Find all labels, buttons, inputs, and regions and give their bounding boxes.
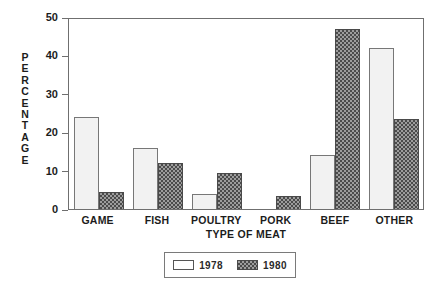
y-axis-tick-label: 30 (18, 89, 58, 100)
x-axis-tick-label: OTHER (365, 214, 424, 226)
legend-entry-1980: 1980 (237, 260, 287, 271)
bar-poultry-1980 (217, 173, 242, 209)
y-axis-tick-label: 10 (18, 166, 58, 177)
y-axis-tick-mark (62, 210, 68, 211)
bar-group (364, 19, 423, 209)
y-axis-tick-mark (62, 56, 68, 57)
bar-fish-1980 (158, 163, 183, 209)
y-axis-tick-label: 50 (18, 12, 58, 23)
y-axis-title-letter: G (16, 143, 34, 154)
bar-pork-1980 (276, 196, 301, 209)
legend-label: 1978 (199, 260, 223, 271)
y-axis-tick-label: 0 (18, 204, 58, 215)
legend-entry-1978: 1978 (173, 260, 223, 271)
x-axis-tick-label: PORK (246, 214, 305, 226)
bars-layer (69, 19, 423, 209)
x-axis-tick-label: GAME (68, 214, 127, 226)
y-axis-title: P E R C E N T A G E (16, 52, 34, 166)
bar-group (128, 19, 187, 209)
chart-legend: 1978 1980 (164, 252, 296, 278)
bar-game-1980 (99, 192, 124, 209)
x-axis-title: TYPE OF MEAT (68, 228, 424, 240)
y-axis-tick-mark (62, 94, 68, 95)
bar-group (187, 19, 246, 209)
bar-chart-figure: P E R C E N T A G E 01020304050 GAMEFISH… (0, 0, 446, 292)
bar-poultry-1978 (192, 194, 217, 209)
bar-group (305, 19, 364, 209)
y-axis-tick-mark (62, 18, 68, 19)
y-axis-tick-mark (62, 171, 68, 172)
x-axis-tick-label: POULTRY (187, 214, 246, 226)
bar-other-1980 (394, 119, 419, 209)
x-axis-tick-label: BEEF (305, 214, 364, 226)
bar-group (69, 19, 128, 209)
x-axis-tick-label: FISH (127, 214, 186, 226)
plot-area (68, 18, 424, 210)
bar-other-1978 (369, 48, 394, 209)
legend-label: 1980 (263, 260, 287, 271)
y-axis-tick-label: 20 (18, 127, 58, 138)
y-axis-tick-label: 40 (18, 50, 58, 61)
y-axis-tick-mark (62, 133, 68, 134)
bar-game-1978 (74, 117, 99, 209)
bar-group (246, 19, 305, 209)
legend-swatch-icon (237, 260, 258, 270)
legend-swatch-icon (173, 260, 194, 270)
x-axis-tick-labels: GAMEFISHPOULTRYPORKBEEFOTHER (68, 214, 424, 226)
bar-beef-1978 (310, 155, 335, 209)
bar-beef-1980 (335, 29, 360, 209)
bar-fish-1978 (133, 148, 158, 209)
y-axis-title-letter: E (16, 155, 34, 166)
